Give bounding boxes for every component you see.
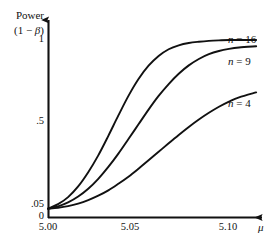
power-curve-figure: Power (1 − β) 1 .5 .05 0 5.00 5.05 5.10 … (0, 0, 276, 244)
y-tick-label-0-05: .05 (10, 199, 44, 210)
series-label-n-16-value: = 16 (236, 33, 256, 45)
data-curves (48, 40, 256, 209)
x-tick-label-5-00: 5.00 (25, 222, 71, 233)
series-label-n-4-var: n (228, 97, 234, 109)
y-tick-label-1: 1 (10, 34, 44, 45)
y-axis-title-line1: Power (16, 9, 44, 21)
series-label-n-4: n = 4 (228, 98, 251, 109)
y-tick-label-0-5: .5 (10, 116, 44, 127)
series-label-n-4-value: = 4 (236, 97, 250, 109)
series-label-n-16-var: n (228, 33, 234, 45)
y-tick-label-0: 0 (10, 211, 44, 222)
x-axis-title-mu: μ (258, 222, 264, 233)
curve-n-16 (48, 40, 256, 209)
x-tick-label-5-05: 5.05 (107, 222, 153, 233)
curve-n-4 (48, 92, 256, 208)
series-label-n-9-var: n (228, 55, 234, 67)
series-label-n-9: n = 9 (228, 56, 251, 67)
series-label-n-16: n = 16 (228, 34, 256, 45)
x-tick-label-5-10: 5.10 (205, 222, 251, 233)
series-label-n-9-value: = 9 (236, 55, 250, 67)
